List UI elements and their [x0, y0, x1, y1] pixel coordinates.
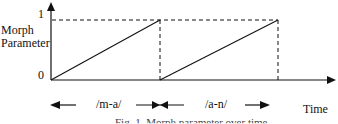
right-arrow-icon — [260, 101, 270, 109]
y-axis-arrow-icon — [47, 2, 55, 11]
right-arrow-icon — [152, 101, 160, 109]
x-axis-label: Time — [303, 103, 328, 116]
y-tick-top: 1 — [38, 8, 44, 21]
x-axis-arrow-icon — [327, 76, 336, 84]
segment-1-label: /m-a/ — [96, 98, 121, 111]
left-arrow-icon — [50, 101, 60, 109]
ramp-segment-1 — [51, 20, 160, 80]
ramp-segment-2 — [160, 20, 278, 80]
segment-2-label: /a-n/ — [205, 98, 227, 111]
left-arrow-icon — [160, 101, 168, 109]
y-axis-label-line2: Parameter — [1, 37, 50, 50]
y-tick-bottom: 0 — [38, 69, 44, 82]
figure-caption: Fig. 1. Morph parameter over time — [115, 116, 267, 124]
morph-parameter-diagram — [0, 0, 338, 124]
